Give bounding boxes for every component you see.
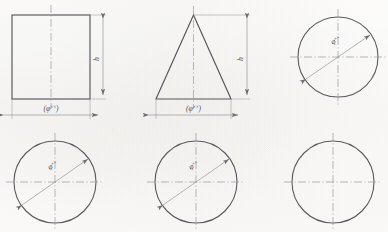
circle-profile-bottom-center: φ×× (147, 133, 245, 231)
technical-drawing-canvas: h (φ××) h (φ××) φ×× (0, 0, 388, 232)
triangle-profile: h (φ××) (149, 6, 250, 119)
square-width-paren-close: ) (55, 104, 59, 113)
circle-tr-diameter-label: φ×× (329, 33, 343, 46)
circle-profile-bottom-right (284, 133, 382, 231)
circle-bl-diameter-label: φ×× (46, 158, 60, 171)
square-height-label: h (92, 57, 101, 61)
triangle-width-label: (φ××) (186, 104, 202, 113)
square-profile: h (φ××) (4, 5, 106, 119)
triangle-width-paren-close: ) (198, 104, 202, 113)
circle-profile-top-right: φ×× (290, 9, 386, 105)
circle-profile-bottom-left: φ×× (6, 133, 104, 231)
triangle-height-label: h (236, 57, 245, 61)
circle-bc-diameter-label: φ×× (187, 158, 201, 171)
square-width-label: (φ××) (43, 104, 59, 113)
